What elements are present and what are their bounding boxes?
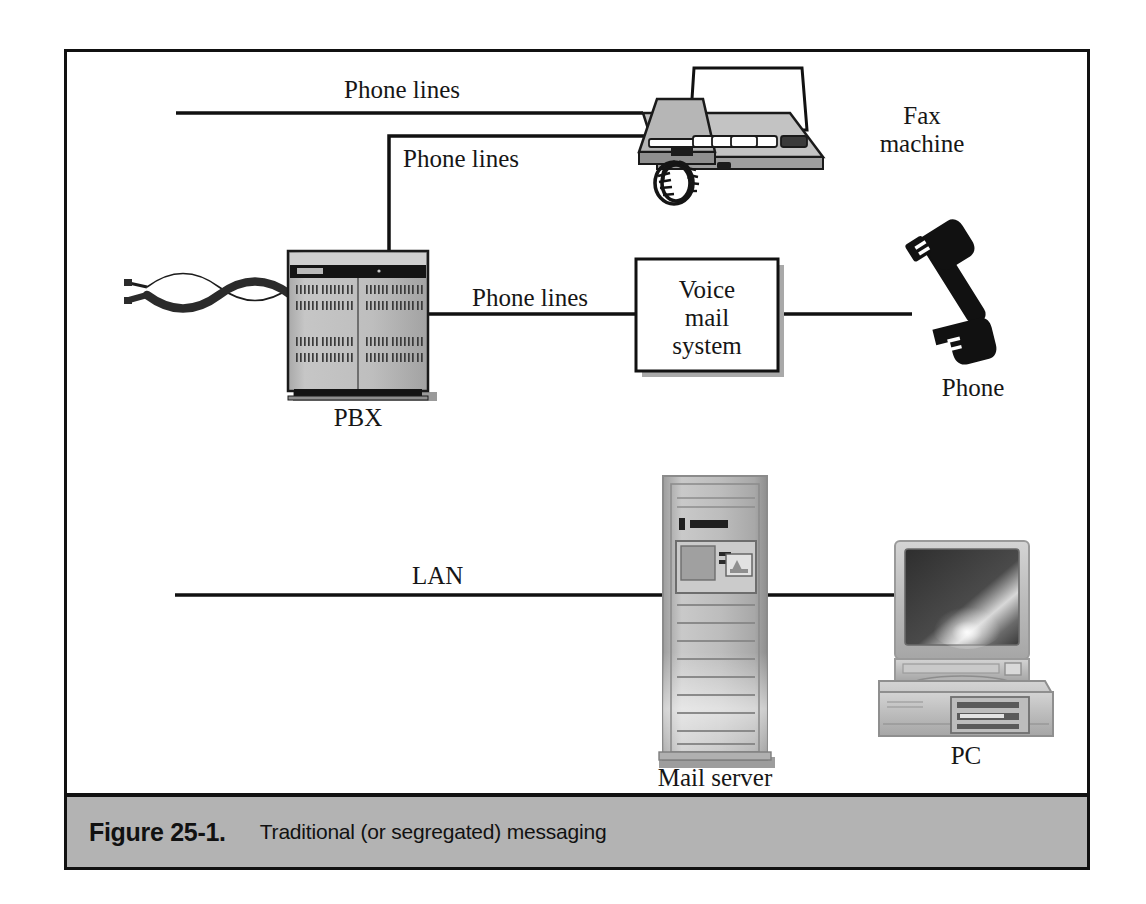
label-voicemail-line1: Voice — [636, 276, 778, 304]
label-mail-server: Mail server — [628, 764, 802, 792]
figure-caption-text: Traditional (or segregated) messaging — [260, 820, 607, 844]
fax-machine-icon — [639, 68, 823, 204]
label-pc: PC — [916, 742, 1016, 770]
label-fax-machine-line1: Fax — [847, 102, 997, 130]
tower-server-icon — [659, 476, 775, 768]
diagram-svg — [67, 52, 1087, 796]
pbx-cabinet-icon — [288, 251, 437, 401]
label-voicemail-line2: mail — [636, 304, 778, 332]
label-pbx: PBX — [308, 404, 408, 432]
label-phone: Phone — [913, 374, 1033, 402]
figure-number: Figure 25-1. — [89, 818, 226, 847]
label-phone-lines-pbx-voicemail: Phone lines — [472, 284, 588, 312]
label-fax-machine: Fax machine — [847, 102, 997, 158]
label-phone-lines-pbx-fax: Phone lines — [403, 145, 519, 173]
label-voicemail-line3: system — [636, 332, 778, 360]
label-voice-mail-system: Voice mail system — [636, 276, 778, 360]
label-fax-machine-line2: machine — [847, 130, 997, 158]
label-lan: LAN — [412, 562, 463, 590]
figure-frame: Phone lines Phone lines Phone lines LAN … — [64, 49, 1090, 870]
diagram-canvas: Phone lines Phone lines Phone lines LAN … — [67, 52, 1087, 796]
figure-caption-bar: Figure 25-1. Traditional (or segregated)… — [67, 793, 1087, 867]
label-phone-lines-top: Phone lines — [344, 76, 460, 104]
desktop-computer-icon — [879, 541, 1053, 736]
telephone-handset-icon — [876, 214, 1032, 386]
figure-root: Phone lines Phone lines Phone lines LAN … — [0, 0, 1146, 904]
